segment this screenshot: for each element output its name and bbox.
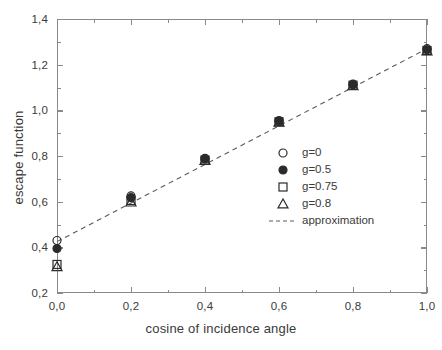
x-tick-major: [353, 287, 354, 293]
x-tick-label: 0,6: [271, 300, 288, 312]
x-tick-label: 1,0: [419, 300, 436, 312]
y-tick-minor: [57, 42, 61, 43]
x-tick-major-top: [131, 19, 132, 25]
x-tick-major-top: [205, 19, 206, 25]
legend-marker: [279, 183, 287, 191]
y-tick-minor-right: [424, 179, 428, 180]
y-tick-major-right: [421, 247, 427, 248]
y-tick-minor: [57, 179, 61, 180]
x-axis-label: cosine of incidence angle: [0, 321, 442, 336]
legend-item-g-0-75[interactable]: g=0.75: [268, 178, 418, 195]
x-tick-major: [427, 287, 428, 293]
legend-item-g-0[interactable]: g=0: [268, 144, 418, 161]
y-tick-major-right: [421, 156, 427, 157]
y-tick-major: [57, 156, 63, 157]
legend-label: g=0: [298, 147, 322, 159]
x-tick-major-top: [353, 19, 354, 25]
open-triangle-icon: [268, 197, 298, 211]
y-tick-label: 0,4: [10, 241, 48, 253]
y-tick-minor-right: [424, 133, 428, 134]
x-tick-minor-top: [316, 19, 317, 23]
x-tick-label: 0,4: [197, 300, 214, 312]
y-tick-minor: [57, 225, 61, 226]
y-tick-minor-right: [424, 42, 428, 43]
y-tick-major: [57, 65, 63, 66]
x-tick-minor: [94, 290, 95, 294]
legend-marker: [278, 199, 288, 208]
x-tick-minor: [390, 290, 391, 294]
legend-label: approximation: [298, 215, 374, 227]
x-tick-minor: [242, 290, 243, 294]
filled-circle-icon: [268, 163, 298, 177]
y-tick-major: [57, 247, 63, 248]
y-tick-minor-right: [424, 270, 428, 271]
x-tick-minor-top: [168, 19, 169, 23]
chart-legend: g=0g=0.5g=0.75g=0.8approximation: [268, 144, 418, 229]
legend-label: g=0.8: [298, 198, 331, 210]
legend-item-g-0-5[interactable]: g=0.5: [268, 161, 418, 178]
y-tick-label: 0,2: [10, 287, 48, 299]
x-tick-minor: [316, 290, 317, 294]
x-tick-major: [205, 287, 206, 293]
legend-marker: [279, 149, 287, 157]
y-tick-major: [57, 202, 63, 203]
open-circle-icon: [268, 146, 298, 160]
x-tick-minor: [168, 290, 169, 294]
y-tick-minor-right: [424, 88, 428, 89]
open-square-icon: [268, 180, 298, 194]
x-tick-label: 0,8: [345, 300, 362, 312]
x-tick-major-top: [427, 19, 428, 25]
legend-label: g=0.5: [298, 164, 331, 176]
y-tick-label: 1,2: [10, 59, 48, 71]
legend-item-g-0-8[interactable]: g=0.8: [268, 195, 418, 212]
x-tick-major: [279, 287, 280, 293]
y-tick-minor-right: [424, 225, 428, 226]
y-tick-major-right: [421, 65, 427, 66]
x-tick-minor-top: [242, 19, 243, 23]
y-tick-major-right: [421, 19, 427, 20]
x-tick-major: [131, 287, 132, 293]
y-tick-major-right: [421, 202, 427, 203]
x-tick-minor-top: [390, 19, 391, 23]
y-tick-label: 1,4: [10, 13, 48, 25]
dashed-line-icon: [268, 214, 298, 228]
x-tick-minor-top: [94, 19, 95, 23]
y-tick-minor: [57, 133, 61, 134]
y-tick-major: [57, 110, 63, 111]
x-tick-label: 0,0: [49, 300, 66, 312]
x-tick-major-top: [279, 19, 280, 25]
x-tick-label: 0,2: [123, 300, 140, 312]
y-axis-label: escape function: [11, 78, 26, 238]
y-tick-major-right: [421, 293, 427, 294]
y-tick-minor: [57, 88, 61, 89]
legend-marker: [279, 166, 287, 174]
legend-item-approximation[interactable]: approximation: [268, 212, 418, 229]
y-tick-minor: [57, 270, 61, 271]
legend-label: g=0.75: [298, 181, 338, 193]
y-tick-major-right: [421, 110, 427, 111]
y-tick-major: [57, 19, 63, 20]
y-tick-major: [57, 293, 63, 294]
chart-figure: 0,00,20,40,60,81,00,20,40,60,81,01,21,4 …: [0, 0, 442, 350]
